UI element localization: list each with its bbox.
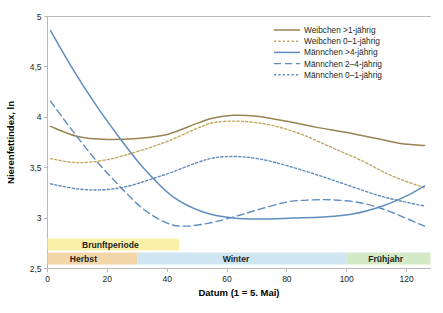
x-tick-label: 80 (282, 274, 292, 284)
x-tick-label: 20 (103, 274, 113, 284)
y-tick-label: 5 (37, 12, 42, 22)
y-tick-label: 2,5 (30, 264, 42, 274)
x-tick-label: 0 (45, 274, 50, 284)
legend-label: Weibchen 0–1-jährig (304, 36, 380, 46)
legend-label: Männchen 2–4-jährig (304, 59, 382, 69)
legend-label: Männchen 0–1-jährig (304, 70, 382, 80)
season-band-label: Frühjahr (368, 254, 404, 264)
x-tick-label: 60 (222, 274, 232, 284)
chart-container: 54,543,532,5020406080100120 Brunftperiod… (0, 0, 443, 313)
legend-label: Männchen >4-jährig (304, 47, 378, 57)
x-tick-label: 40 (162, 274, 172, 284)
x-axis-title: Datum (1 = 5. Mai) (198, 287, 279, 298)
legend-label: Weibchen >1-jährig (304, 25, 376, 35)
x-tick-label: 120 (399, 274, 413, 284)
y-tick-label: 3,5 (30, 163, 42, 173)
season-band-label: Brunftperiode (82, 240, 139, 250)
y-tick-label: 4,5 (30, 62, 42, 72)
kidney-fat-index-line-chart: 54,543,532,5020406080100120 Brunftperiod… (0, 0, 443, 313)
y-axis-title: Nierenfettindex, ln (5, 101, 16, 184)
y-tick-label: 3 (37, 213, 42, 223)
season-band-label: Winter (223, 254, 250, 264)
y-tick-label: 4 (37, 112, 42, 122)
x-tick-label: 100 (340, 274, 354, 284)
season-band-label: Herbst (70, 254, 97, 264)
